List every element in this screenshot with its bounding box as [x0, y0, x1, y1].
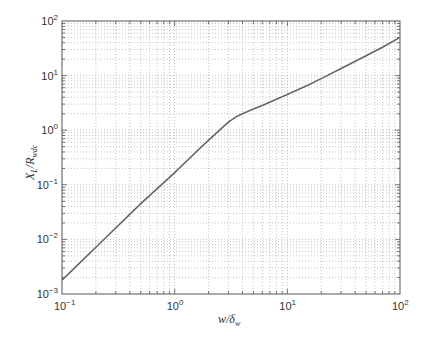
x-tick-label: 100	[167, 298, 184, 312]
grid-lines	[62, 21, 400, 294]
x-axis-label: w/δw	[218, 312, 241, 328]
y-tick-label: 10−2	[37, 231, 59, 245]
y-tick-labels: 10−310−210−1100101102	[37, 13, 59, 300]
y-tick-label: 10−1	[37, 177, 59, 191]
y-tick-label: 10−3	[37, 286, 59, 300]
plot-frame	[62, 21, 400, 294]
x-tick-label: 102	[392, 298, 409, 312]
axis-ticks	[62, 21, 400, 294]
x-tick-label: 10−1	[54, 298, 76, 312]
y-axis-label: XL/Rwdc	[23, 144, 39, 181]
y-tick-label: 100	[41, 122, 58, 136]
x-tick-label: 101	[279, 298, 296, 312]
x-tick-labels: 10−1100101102	[54, 298, 409, 312]
y-tick-label: 102	[41, 13, 58, 27]
y-tick-label: 101	[41, 68, 58, 82]
chart: 10−1100101102 10−310−210−1100101102 w/δw…	[0, 0, 429, 342]
